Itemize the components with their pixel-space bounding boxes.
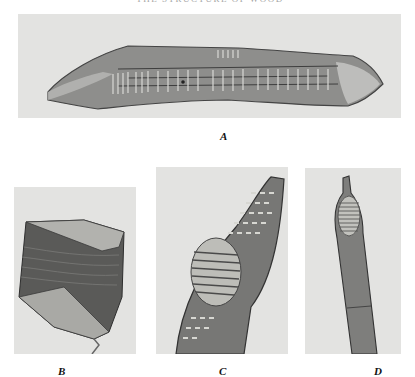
figure-panel-a: [18, 14, 401, 118]
figure-panel-d: [305, 168, 401, 354]
figure-panel-c: [156, 167, 288, 354]
panel-label-d: D: [374, 365, 382, 377]
panel-label-c: C: [219, 365, 226, 377]
panel-label-b: B: [58, 365, 65, 377]
tracheid-image: [18, 14, 401, 118]
vessel-element-image: [305, 168, 401, 354]
figure-panel-b: [14, 187, 136, 354]
cell-tip-image: [156, 167, 288, 354]
running-header: THE STRUCTURE OF WOOD: [130, 0, 290, 4]
panel-label-a: A: [220, 130, 227, 142]
fiber-fragment-image: [14, 187, 136, 354]
